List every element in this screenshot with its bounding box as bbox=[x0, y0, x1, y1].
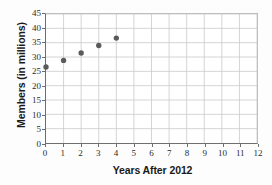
y-tick-mark bbox=[42, 100, 45, 101]
x-tick-mark bbox=[169, 144, 170, 147]
y-tick-label: 15 bbox=[21, 95, 41, 105]
y-tick-mark bbox=[42, 71, 45, 72]
y-tick-label: 35 bbox=[21, 37, 41, 47]
x-tick-mark bbox=[205, 144, 206, 147]
y-tick-label: 40 bbox=[21, 23, 41, 33]
y-tick-mark bbox=[42, 13, 45, 14]
y-tick-mark bbox=[42, 28, 45, 29]
y-tick-mark bbox=[42, 42, 45, 43]
x-tick-label: 12 bbox=[248, 148, 268, 159]
x-tick-mark bbox=[63, 144, 64, 147]
y-tick-mark bbox=[42, 57, 45, 58]
y-tick-mark bbox=[42, 115, 45, 116]
y-tick-label: 20 bbox=[21, 81, 41, 91]
x-tick-mark bbox=[152, 144, 153, 147]
x-tick-mark bbox=[223, 144, 224, 147]
x-tick-mark bbox=[187, 144, 188, 147]
y-tick-label: 5 bbox=[21, 124, 41, 134]
y-tick-label: 25 bbox=[21, 66, 41, 76]
x-tick-mark bbox=[240, 144, 241, 147]
y-tick-mark bbox=[42, 144, 45, 145]
plot-area bbox=[45, 13, 258, 144]
x-tick-mark bbox=[116, 144, 117, 147]
scatter-chart: Members (in millions) 051015202530354045… bbox=[0, 0, 272, 185]
x-tick-mark bbox=[134, 144, 135, 147]
y-tick-label: 30 bbox=[21, 52, 41, 62]
y-tick-label: 10 bbox=[21, 110, 41, 120]
x-tick-mark bbox=[258, 144, 259, 147]
data-points bbox=[46, 14, 257, 143]
x-tick-mark bbox=[81, 144, 82, 147]
y-tick-label: 45 bbox=[21, 8, 41, 18]
x-axis-title: Years After 2012 bbox=[45, 164, 260, 176]
x-tick-mark bbox=[98, 144, 99, 147]
y-tick-mark bbox=[42, 86, 45, 87]
x-tick-mark bbox=[45, 144, 46, 147]
y-tick-mark bbox=[42, 129, 45, 130]
